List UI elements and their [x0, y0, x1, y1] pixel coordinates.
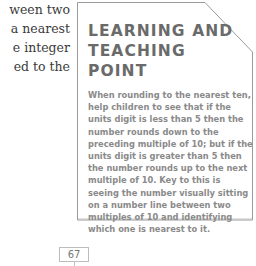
body-text-line: e integer: [0, 38, 70, 57]
box-content: LEARNING AND TEACHING POINT When roundin…: [88, 21, 250, 235]
box-title: LEARNING AND TEACHING POINT: [88, 21, 250, 81]
box-body-line: the number rounds up to the next: [88, 162, 250, 174]
box-body-line: on a number line between two: [88, 199, 250, 211]
page-number: 67: [59, 247, 89, 262]
box-title-line: LEARNING AND: [88, 21, 250, 41]
box-body-line: number rounds down to the: [88, 126, 250, 138]
box-body-line: seeing the number visually sitting: [88, 187, 250, 199]
box-body-text: When rounding to the nearest ten, help c…: [88, 89, 250, 235]
body-text-line: a nearest: [0, 19, 70, 38]
box-body-line: preceding multiple of 10; but if the: [88, 138, 250, 150]
box-body-line: help children to see that if the: [88, 101, 250, 113]
page-number-tick: [74, 262, 75, 266]
box-body-line: multiples of 10 and identifying: [88, 211, 250, 223]
box-title-line: TEACHING POINT: [88, 41, 250, 81]
learning-teaching-point-box: LEARNING AND TEACHING POINT When roundin…: [77, 2, 253, 221]
body-text-line: ed to the: [0, 57, 70, 76]
body-text-line: ween two: [0, 0, 70, 19]
box-body-line: units digit is less than 5 then the: [88, 113, 250, 125]
box-body-line: which one is nearest to it.: [88, 223, 250, 235]
box-body-line: When rounding to the nearest ten,: [88, 89, 250, 101]
main-body-text-fragment: ween two a nearest e integer ed to the: [0, 0, 70, 76]
box-body-line: multiple of 10. Key to this is: [88, 174, 250, 186]
box-body-line: units digit is greater than 5 then: [88, 150, 250, 162]
